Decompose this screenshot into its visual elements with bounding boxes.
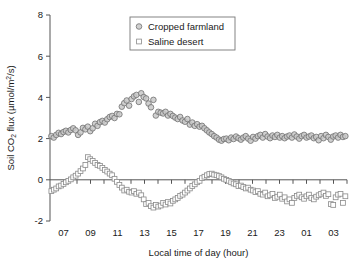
x-axis-tick-label: 17	[193, 227, 204, 238]
legend-label: Cropped farmland	[148, 21, 224, 32]
legend-label: Saline desert	[148, 36, 204, 47]
legend-marker-circle	[136, 24, 142, 30]
data-point-circle	[136, 99, 142, 105]
y-axis-tick-label: 0	[38, 174, 43, 185]
x-axis-tick-label: 01	[301, 227, 312, 238]
data-point-square	[331, 203, 336, 208]
data-point-circle	[126, 103, 132, 109]
data-point-circle	[143, 96, 149, 102]
y-axis-tick-label: 2	[38, 133, 43, 144]
soil-co2-flux-scatter-chart: -2024680709111315171921230103Local time …	[0, 0, 353, 266]
x-axis-tick-label: 13	[139, 227, 150, 238]
x-axis-tick-label: 09	[85, 227, 96, 238]
legend: Cropped farmlandSaline desert	[130, 17, 235, 50]
x-axis-tick-label: 21	[247, 227, 258, 238]
data-point-circle	[185, 116, 191, 122]
x-axis-tick-label: 03	[328, 227, 339, 238]
data-point-circle	[343, 133, 349, 139]
data-point-square	[343, 194, 348, 199]
data-point-square	[290, 200, 295, 205]
x-axis-tick-label: 19	[220, 227, 231, 238]
data-point-circle	[151, 97, 157, 103]
series-cropped-farmland	[49, 90, 349, 143]
x-axis-tick-label: 11	[113, 227, 123, 238]
legend-marker-square	[137, 39, 142, 44]
series-saline-desert	[49, 155, 348, 210]
data-point-square	[338, 191, 343, 196]
x-axis-title: Local time of day (hour)	[149, 247, 249, 258]
y-axis-tick-label: 8	[38, 9, 43, 20]
x-axis-tick-label: 23	[274, 227, 285, 238]
y-axis-tick-label: -2	[35, 215, 43, 226]
figure-container: -2024680709111315171921230103Local time …	[0, 0, 353, 266]
data-point-square	[326, 192, 331, 197]
y-axis-tick-label: 6	[38, 51, 43, 62]
y-axis-title: Soil CO2 flux (µmol/m2/s)	[5, 65, 17, 170]
data-point-square	[341, 200, 346, 205]
x-axis-tick-label: 15	[166, 227, 177, 238]
data-point-circle	[148, 104, 154, 110]
data-point-circle	[117, 111, 123, 117]
y-axis-tick-label: 4	[38, 92, 43, 103]
data-point-square	[83, 163, 88, 168]
data-point-square	[141, 197, 146, 202]
x-axis-tick-label: 07	[58, 227, 69, 238]
